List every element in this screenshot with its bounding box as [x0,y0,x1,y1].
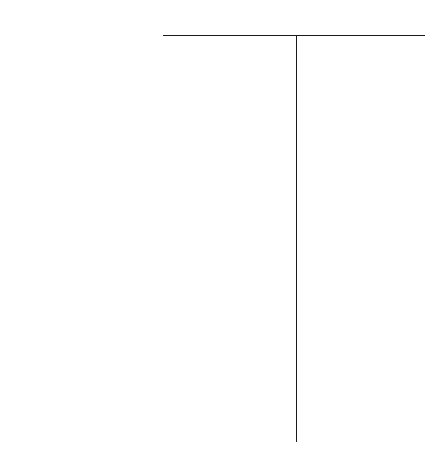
plot-area [0,36,440,449]
zero-baseline [296,36,297,442]
chart-header [0,0,440,40]
centile-profile-chart [0,0,440,449]
